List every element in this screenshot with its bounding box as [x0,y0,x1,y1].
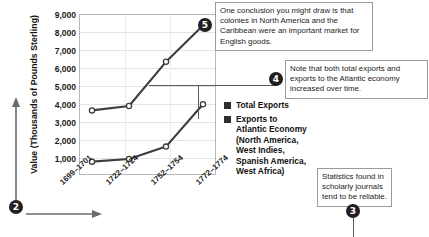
callout-5-text: One conclusion you might draw is that co… [220,6,368,47]
callout-box-5: One conclusion you might draw is that co… [215,2,373,51]
legend-label-atlantic-economy: Exports to Atlantic Economy (North Ameri… [236,114,308,177]
leader-line-callout-4-horizontal [149,85,277,86]
legend-swatch-icon-atlantic-economy [224,116,231,123]
legend-swatch-icon-total-exports [224,102,231,109]
legend-label-total-exports: Total Exports [236,100,289,111]
legend-item-atlantic-economy[interactable]: Exports to Atlantic Economy (North Ameri… [224,114,308,177]
chart-legend: Total Exports Exports to Atlantic Econom… [224,100,308,180]
callout-box-3: Statistics found in scholarly journals t… [317,168,392,207]
callout-marker-4[interactable]: 4 [269,72,283,86]
legend-item-total-exports[interactable]: Total Exports [224,100,308,111]
callout-marker-2[interactable]: 2 [9,200,23,214]
chart-figure: Value (Thousands of Pounds Sterling) 9,0… [0,0,429,237]
callout-marker-5[interactable]: 5 [198,18,212,32]
callout-marker-3[interactable]: 3 [346,204,360,218]
callout-3-text: Statistics found in scholarly journals t… [322,172,387,203]
callout-box-4: Note that both total exports and exports… [285,60,428,99]
leader-line-callout-4-vertical [198,85,199,119]
callout-4-text: Note that both total exports and exports… [290,64,423,95]
